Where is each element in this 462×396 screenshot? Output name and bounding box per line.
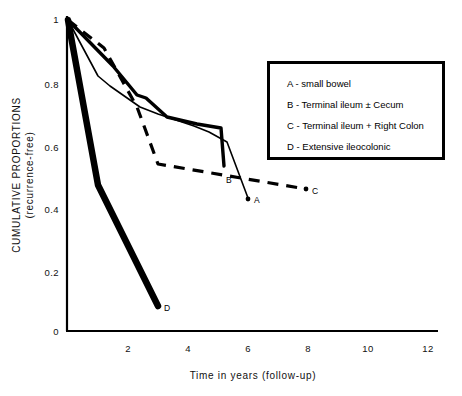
- y-tick-label-1: 1: [53, 14, 59, 25]
- x-tick-label-2: 2: [125, 343, 131, 354]
- legend-entry-d: D - Extensive ileocolonic: [287, 136, 442, 157]
- y-tick-label-0_4: 0.4: [45, 204, 59, 215]
- y-axis-title-sub: (recurrence-free): [24, 132, 35, 219]
- curve-end-label-d: D: [164, 303, 170, 313]
- x-tick-label-12: 12: [422, 343, 433, 354]
- curve-end-label-a: A: [254, 195, 260, 205]
- endpoint-dot-c: [304, 187, 309, 192]
- curve-end-label-c: C: [312, 186, 318, 196]
- legend-entry-a: A - small bowel: [287, 73, 442, 94]
- survival-curve-figure: 1 0.8 0.6 0.4 0.2 0 2 4 6 8 10 12 Time i…: [0, 0, 462, 396]
- y-tick-label-0: 0: [53, 326, 59, 337]
- x-tick-label-6: 6: [245, 343, 251, 354]
- chart-canvas: 1 0.8 0.6 0.4 0.2 0 2 4 6 8 10 12 Time i…: [0, 0, 462, 396]
- y-tick-label-0_2: 0.2: [45, 267, 59, 278]
- x-tick-label-8: 8: [305, 343, 311, 354]
- y-axis-title-main: CUMULATIVE PROPORTIONS: [11, 97, 22, 253]
- legend-entry-c: C - Terminal ileum + Right Colon: [287, 115, 442, 136]
- endpoint-dot-a: [246, 197, 251, 202]
- curve-end-label-b: B: [226, 175, 232, 185]
- legend-box: A - small bowel B - Terminal ileum ± Cec…: [267, 61, 445, 160]
- x-tick-label-4: 4: [185, 343, 191, 354]
- x-axis-title: Time in years (follow-up): [190, 370, 317, 381]
- legend-entry-b: B - Terminal ileum ± Cecum: [287, 94, 442, 115]
- y-tick-label-0_6: 0.6: [45, 142, 59, 153]
- x-tick-label-10: 10: [362, 343, 373, 354]
- y-tick-label-0_8: 0.8: [45, 79, 59, 90]
